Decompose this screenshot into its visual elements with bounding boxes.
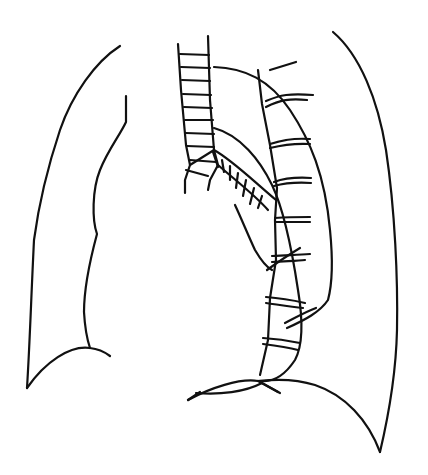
trachea-rings-7 [187, 146, 214, 147]
aorta-lower-branch [235, 205, 272, 270]
trachea-rings-1 [181, 67, 210, 68]
right-lung-base [27, 348, 110, 388]
chest-line-drawing [0, 0, 428, 475]
crossing-strokes-3 [258, 381, 278, 392]
chest-diagram [0, 0, 428, 475]
bronchus-rings-5 [243, 180, 246, 196]
diaphragm-right [196, 383, 280, 394]
trachea-rings-0 [180, 54, 209, 55]
vertebra-lines-5 [274, 183, 311, 186]
right-lung-inner [84, 96, 126, 348]
trachea-rings-2 [182, 80, 210, 81]
left-lung-outer [333, 32, 397, 452]
vertebra-lines-3 [270, 144, 310, 148]
bronchus-rings-0 [186, 170, 208, 176]
trachea-right [208, 36, 218, 190]
bronchus-rings-2 [222, 160, 224, 172]
vertebra-lines-6 [275, 217, 310, 218]
trachea-rings-4 [184, 107, 212, 108]
diaphragm-left [188, 380, 258, 400]
bronchus-rings-4 [236, 173, 238, 188]
spine-right-stub [270, 62, 296, 70]
vertebra-lines-11 [266, 303, 303, 308]
trachea-rings-6 [186, 133, 214, 134]
trachea-rings-3 [183, 94, 211, 95]
vertebra-lines-13 [263, 344, 298, 350]
anatomy-strokes [27, 32, 397, 452]
right-lung-outer [27, 46, 120, 388]
vertebra-lines-4 [274, 178, 311, 182]
